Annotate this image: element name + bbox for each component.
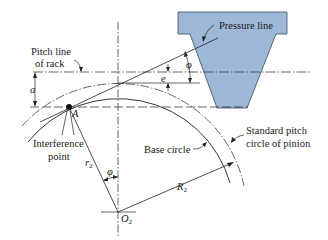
phi-arrow-bottom-2 (113, 175, 118, 179)
e-arrow-bottom (166, 83, 170, 88)
a-arrow-top (33, 72, 37, 78)
phi-bottom-label: φ (107, 166, 113, 177)
r2-radius-line (69, 107, 118, 212)
pitch-line-label-2: of rack (35, 58, 64, 69)
R2-radius-line (118, 163, 232, 212)
R2-arrowhead (227, 162, 234, 167)
interference-label-1: Interference (33, 138, 84, 149)
phi-arrow-bottom-1 (103, 177, 108, 181)
standard-pitch-circle (22, 83, 244, 186)
phi-top-label: φ (186, 59, 192, 70)
base-circle-label: Base circle (144, 144, 190, 155)
a-dimension-label: a (30, 84, 35, 95)
interference-label-2: point (48, 151, 70, 162)
interference-leader-1 (62, 111, 67, 135)
std-pitch-leader-arrow (231, 137, 236, 143)
pitch-line-leader-arrow (79, 67, 83, 72)
std-pitch-label-2: circle of pinion (246, 138, 310, 149)
gear-rack-interference-diagram (0, 0, 328, 240)
point-A-label: A (72, 108, 78, 119)
e-arrow-top (166, 67, 170, 72)
r2-label: r2 (85, 157, 93, 172)
O2-label: O2 (121, 213, 132, 228)
pitch-line-label-1: Pitch line (31, 46, 71, 57)
pressure-line-label: Pressure line (219, 20, 273, 31)
phi-arrow-top-2 (188, 78, 192, 83)
a-arrow-bottom (33, 101, 37, 107)
R2-label: R2 (177, 181, 187, 196)
e-dimension-label: e (161, 73, 166, 84)
std-pitch-label-1: Standard pitch (246, 125, 307, 136)
phi-arrow-top-1 (184, 51, 188, 57)
